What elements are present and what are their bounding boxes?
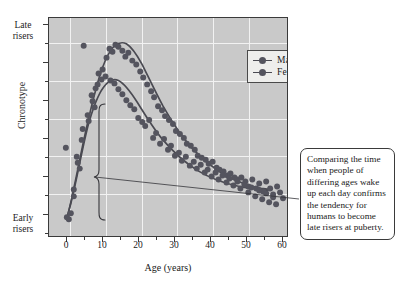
x-tick-50: 50 <box>241 240 251 250</box>
x-tick-20: 20 <box>133 240 143 250</box>
x-tick-10: 10 <box>97 240 107 250</box>
chronotype-figure: Late risers Early risers Chronotype <box>0 0 399 289</box>
x-tick-30: 30 <box>169 240 179 250</box>
x-tick-40: 40 <box>205 240 215 250</box>
y-axis-top-label-line2: risers <box>2 31 44 42</box>
axis-tick-marks <box>40 12 296 248</box>
y-axis-bottom-label-line2: risers <box>2 224 44 235</box>
caption-box: Comparing the time when people of differ… <box>300 148 395 240</box>
x-tick-0: 0 <box>64 240 69 250</box>
y-axis-title: Chronotype <box>16 61 27 151</box>
x-tick-60: 60 <box>277 240 287 250</box>
x-axis-title: Age (years) <box>48 262 288 273</box>
caption-text: Comparing the time when people of differ… <box>307 154 386 232</box>
y-axis-bottom-label-line1: Early <box>2 213 44 224</box>
y-axis-bottom-label: Early risers <box>2 213 44 235</box>
y-axis-top-label-line1: Late <box>2 20 44 31</box>
x-axis-tick-labels: 0 10 20 30 40 50 60 <box>48 240 288 254</box>
y-axis-top-label: Late risers <box>2 20 44 42</box>
